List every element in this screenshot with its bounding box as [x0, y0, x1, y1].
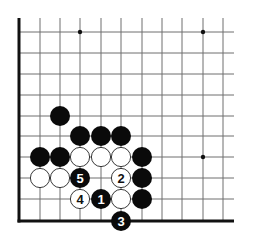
black-stone-icon	[132, 147, 152, 167]
move-number: 3	[117, 214, 124, 229]
black-stone	[70, 126, 90, 146]
black-stone	[91, 126, 111, 146]
star-point	[201, 155, 205, 159]
white-stone	[91, 147, 110, 166]
white-stone	[111, 147, 130, 166]
black-stone-icon	[132, 168, 152, 188]
white-stone	[50, 168, 69, 187]
white-stone-icon	[70, 147, 89, 166]
stones: 52413	[30, 106, 152, 231]
star-point	[201, 30, 205, 34]
black-stone	[111, 126, 131, 146]
black-stone-icon	[70, 126, 90, 146]
white-stone	[70, 147, 89, 166]
white-stone	[30, 168, 49, 187]
move-number: 2	[117, 171, 124, 186]
move-number: 4	[76, 192, 84, 207]
white-stone-icon	[111, 189, 130, 208]
white-stone-move-2: 2	[111, 168, 130, 187]
black-stone	[50, 106, 70, 126]
black-stone	[50, 147, 70, 167]
black-stone-icon	[111, 126, 131, 146]
white-stone-icon	[50, 168, 69, 187]
black-stone-icon	[50, 147, 70, 167]
black-stone-move-1: 1	[91, 189, 111, 209]
black-stone-icon	[132, 189, 152, 209]
white-stone-icon	[111, 147, 130, 166]
black-stone	[30, 147, 50, 167]
star-point	[78, 30, 82, 34]
black-stone-icon	[91, 126, 111, 146]
black-stone-icon	[30, 147, 50, 167]
move-number: 1	[97, 192, 104, 207]
white-stone-icon	[91, 147, 110, 166]
black-stone-move-5: 5	[70, 168, 90, 188]
go-board: 52413	[0, 0, 253, 247]
black-stone	[132, 168, 152, 188]
black-stone-icon	[50, 106, 70, 126]
black-stone	[132, 189, 152, 209]
white-stone-move-4: 4	[70, 189, 89, 208]
white-stone	[111, 189, 130, 208]
black-stone	[132, 147, 152, 167]
move-number: 5	[76, 171, 83, 186]
black-stone-move-3: 3	[111, 211, 131, 231]
white-stone-icon	[30, 168, 49, 187]
